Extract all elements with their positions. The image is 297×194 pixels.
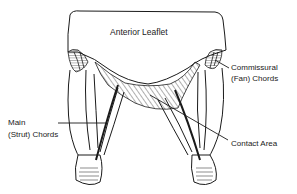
- leader-contact: [150, 95, 228, 140]
- label-strut-chords: (Strut) Chords: [8, 130, 58, 140]
- label-fan-chords: (Fan) Chords: [231, 74, 278, 84]
- label-contact-area: Contact Area: [231, 139, 277, 149]
- label-commissural: Commissural: [231, 63, 278, 73]
- anterior-leaflet-shape: [68, 11, 226, 84]
- label-main: Main: [8, 118, 25, 128]
- label-anterior-leaflet: Anterior Leaflet: [110, 27, 168, 37]
